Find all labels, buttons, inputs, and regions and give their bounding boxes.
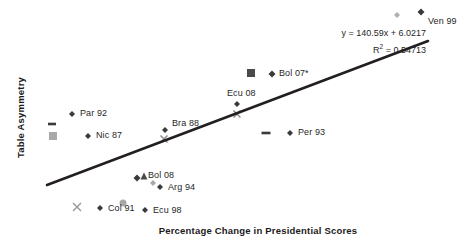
data-point-marker (394, 12, 400, 18)
data-point-marker (247, 69, 255, 77)
data-point-marker (134, 175, 141, 182)
data-point-label: Ven 99 (428, 16, 457, 26)
data-point-marker (157, 184, 163, 190)
data-point-label: Par 92 (80, 108, 107, 118)
data-point-marker (48, 123, 56, 126)
data-point-marker (85, 133, 91, 139)
data-point-label: Bol 08 (148, 170, 174, 180)
data-point-label: Arg 94 (168, 182, 195, 192)
data-point-marker (150, 180, 156, 186)
data-point-marker (418, 9, 425, 16)
data-point-marker (141, 173, 148, 180)
data-point-label: Ecu 08 (227, 88, 256, 98)
regression-r-squared: R2 = 0.54713 (341, 40, 426, 57)
data-point-marker (97, 205, 103, 211)
data-point-marker (162, 127, 168, 133)
data-point-marker (69, 111, 75, 117)
regression-annotation: y = 140.59x + 6.0217 R2 = 0.54713 (341, 27, 426, 57)
data-point-marker (142, 207, 148, 213)
r2-value: = 0.54713 (383, 45, 426, 55)
data-point-marker (234, 101, 240, 107)
data-point-marker (262, 132, 271, 135)
scatter-chart: y = 140.59x + 6.0217 R2 = 0.54713 Table … (0, 0, 461, 241)
data-point-marker (269, 71, 276, 78)
data-point-marker (49, 132, 57, 140)
y-axis-title: Table Asymmetry (15, 58, 26, 178)
data-point-label: Nic 87 (96, 130, 122, 140)
data-point-label: Ecu 98 (153, 205, 182, 215)
data-point-label: Bol 07* (279, 68, 309, 78)
regression-equation: y = 140.59x + 6.0217 (341, 27, 426, 40)
x-axis-title: Percentage Change in Presidential Scores (118, 225, 398, 236)
data-point-label: Bra 88 (172, 118, 199, 128)
data-point-label: Col 91 (108, 203, 135, 213)
data-point-label: Per 93 (298, 127, 325, 137)
data-point-marker (73, 203, 81, 211)
data-point-marker (287, 130, 293, 136)
